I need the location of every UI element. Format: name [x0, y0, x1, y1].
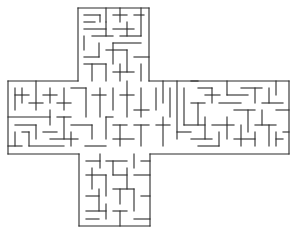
maze-walls: [8, 8, 289, 226]
maze-graphic: [0, 0, 295, 235]
